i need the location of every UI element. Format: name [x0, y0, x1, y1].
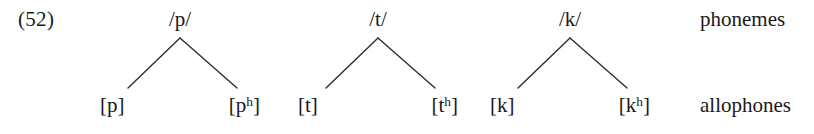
allophone-label-t-aspirated: [th]	[431, 95, 458, 116]
allophone-label-k-plain: [k]	[490, 95, 515, 116]
allophone-base: [p	[229, 93, 247, 117]
phoneme-allophone-diagram: (52) /p/ [p] [ph] /t/ [t] [th] /k/ [k] […	[0, 0, 814, 134]
allophone-label-t-plain: [t]	[298, 95, 318, 116]
row-label-phonemes: phonemes	[700, 9, 785, 30]
branch-lines-t	[298, 34, 458, 92]
phoneme-label-t: /t/	[298, 9, 458, 30]
branch-lines-k	[490, 34, 650, 92]
tree-phoneme-t: /t/ [t] [th]	[298, 0, 458, 134]
allophone-label-k-aspirated: [kh]	[619, 95, 650, 116]
allophone-close: ]	[451, 93, 458, 117]
example-number: (52)	[18, 9, 54, 30]
tree-phoneme-k: /k/ [k] [kh]	[490, 0, 650, 134]
allophone-base: [k	[619, 93, 637, 117]
allophone-label-p-aspirated: [ph]	[229, 95, 260, 116]
allophone-close: ]	[643, 93, 650, 117]
allophone-base: [t	[431, 93, 444, 117]
aspiration-superscript: h	[636, 94, 643, 109]
row-label-allophones: allophones	[700, 95, 791, 116]
aspiration-superscript: h	[246, 94, 253, 109]
phoneme-label-p: /p/	[100, 9, 260, 30]
tree-phoneme-p: /p/ [p] [ph]	[100, 0, 260, 134]
allophone-label-p-plain: [p]	[100, 95, 125, 116]
phoneme-label-k: /k/	[490, 9, 650, 30]
branch-lines-p	[100, 34, 260, 92]
aspiration-superscript: h	[444, 94, 451, 109]
allophone-close: ]	[253, 93, 260, 117]
